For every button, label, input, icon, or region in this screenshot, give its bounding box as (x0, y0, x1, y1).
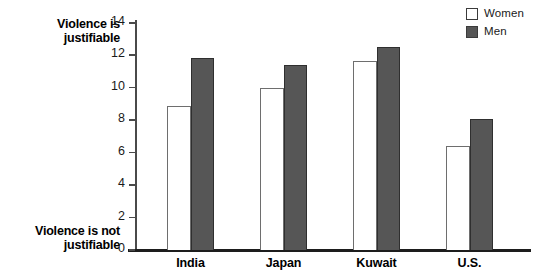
y-tick-mark (129, 184, 135, 186)
bar-men-us (470, 119, 494, 250)
y-tick-label: 4 (118, 176, 125, 190)
y-tick-label: 2 (118, 209, 125, 223)
bar-group-japan (260, 22, 307, 250)
legend-label-women: Women (484, 8, 524, 20)
x-label-japan: Japan (249, 256, 319, 270)
bar-men-india (191, 58, 215, 250)
y-tick-mark (129, 217, 135, 219)
y-tick-mark (129, 87, 135, 89)
y-tick-label: 6 (118, 144, 125, 158)
x-label-kuwait: Kuwait (342, 256, 412, 270)
open-square-swatch-icon (466, 8, 478, 20)
bar-women-kuwait (353, 61, 377, 250)
bar-women-us (446, 146, 470, 250)
y-tick-mark (129, 22, 135, 24)
y-tick-label: 14 (111, 14, 125, 28)
bar-chart: Women Men Violence is justifiable Violen… (0, 0, 535, 278)
legend-item-women: Women (466, 6, 532, 21)
bar-women-india (167, 106, 191, 250)
bar-group-us (446, 22, 493, 250)
axis-label-bottom: Violence is not justifiable (4, 224, 120, 252)
y-tick-label: 0 (118, 241, 125, 255)
bar-men-japan (284, 65, 308, 250)
y-tick-label: 12 (111, 46, 125, 60)
bar-group-india (167, 22, 214, 250)
y-tick-mark (129, 249, 135, 251)
bar-women-japan (260, 88, 284, 250)
bar-men-kuwait (377, 47, 401, 250)
bar-group-kuwait (353, 22, 400, 250)
axis-label-top: Violence is justifiable (8, 17, 120, 45)
y-tick-mark (129, 54, 135, 56)
y-tick-mark (129, 119, 135, 121)
x-label-india: India (156, 256, 226, 270)
y-tick-label: 8 (118, 111, 125, 125)
plot-area (136, 22, 531, 250)
y-tick-label: 10 (111, 79, 125, 93)
x-label-us: U.S. (435, 256, 505, 270)
y-tick-mark (129, 152, 135, 154)
cropped-caption-artifact (14, 268, 18, 278)
